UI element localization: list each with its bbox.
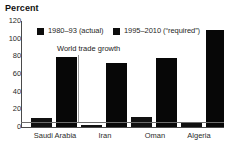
y-tick-60: 60 <box>2 70 21 78</box>
bar-oman-required <box>156 58 177 127</box>
legend-label-required: 1995–2010 (“required”) <box>124 27 200 35</box>
y-tick-20: 20 <box>2 105 21 113</box>
bar-chart: Percent 120 100 80 60 40 20 0 World trad… <box>0 0 229 151</box>
legend-swatch-actual <box>37 28 44 35</box>
y-tick-0: 0 <box>2 123 21 131</box>
legend-swatch-required <box>113 28 120 35</box>
bar-algeria-required <box>206 30 224 127</box>
x-axis-line <box>21 127 224 128</box>
world-trade-growth-label: World trade growth <box>57 44 120 53</box>
legend-item-required: 1995–2010 (“required”) <box>113 27 200 35</box>
world-trade-growth-leader-line <box>78 55 79 122</box>
x-tick-label-algeria: Algeria <box>170 131 228 140</box>
y-tick-100: 100 <box>2 35 21 43</box>
y-tick-120: 120 <box>2 17 21 25</box>
world-trade-growth-reference-line <box>21 122 224 123</box>
y-tick-80: 80 <box>2 52 21 60</box>
bar-iran-required <box>106 63 127 128</box>
y-axis-ticks: 120 100 80 60 40 20 0 <box>0 0 21 151</box>
bar-iran-actual <box>81 125 102 127</box>
y-tick-40: 40 <box>2 88 21 96</box>
bar-saudi-arabia-required <box>56 57 77 127</box>
legend-item-actual: 1980–93 (actual) <box>37 27 104 35</box>
legend-label-actual: 1980–93 (actual) <box>48 27 104 35</box>
bar-algeria-actual <box>181 123 202 127</box>
plot-area <box>22 21 224 127</box>
